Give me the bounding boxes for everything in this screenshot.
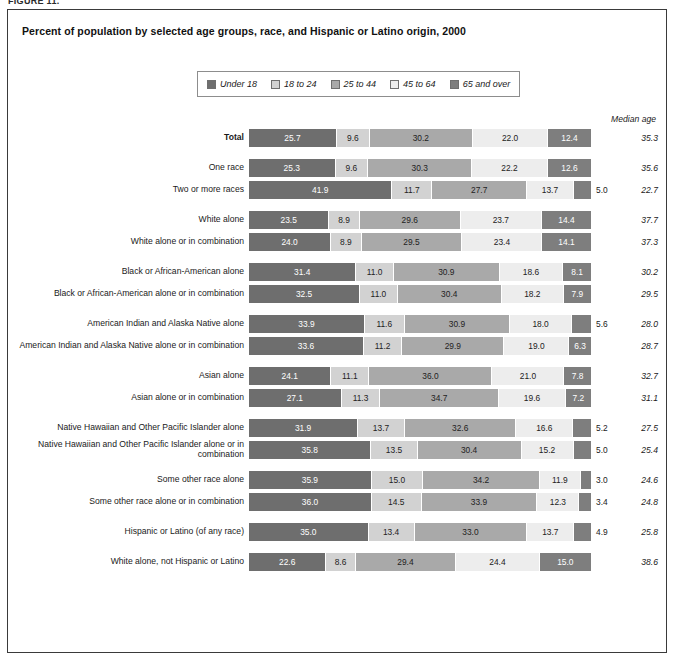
bar-segment: 30.9: [394, 263, 500, 281]
bar-segment: 13.7: [527, 181, 574, 199]
stacked-bar: 24.111.136.021.07.8: [249, 367, 591, 385]
bar-segment: 30.9: [405, 315, 511, 333]
bar-segment-value: 24.0: [281, 238, 297, 247]
bar-segment: 13.4: [369, 523, 415, 541]
legend-swatch-icon: [450, 80, 459, 89]
median-age-value: 29.5: [618, 285, 658, 303]
bar-segment-value: 7.8: [572, 372, 584, 381]
bar-segment-value: 11.0: [367, 268, 383, 277]
bar-segment-value: 15.0: [557, 558, 573, 567]
bar-segment-value: 13.7: [542, 186, 558, 195]
bar-segment-value: 19.6: [524, 394, 540, 403]
bar-segment-value: 8.1: [571, 268, 583, 277]
bar-segment: 41.9: [249, 181, 392, 199]
bar-segment-value: 25.3: [284, 164, 300, 173]
chart-row: Native Hawaiian and Other Pacific Island…: [8, 419, 667, 437]
bar-segment-value: 18.6: [523, 268, 539, 277]
bar-segment: 33.9: [422, 493, 538, 511]
stacked-bar: 24.08.929.523.414.1: [249, 233, 591, 251]
median-age-value: 30.2: [618, 263, 658, 281]
bar-segment-value: 34.7: [431, 394, 447, 403]
bar-segment-value: 33.9: [298, 320, 314, 329]
median-age-value: 24.6: [618, 471, 658, 489]
bar-segment: [572, 315, 591, 333]
bar-segment-value: 13.7: [373, 424, 389, 433]
bar-segment: 14.5: [372, 493, 422, 511]
figure-number: FIGURE 11.: [8, 0, 60, 4]
median-age-value: 28.7: [618, 337, 658, 355]
chart-row-label: American Indian and Alaska Native alone …: [8, 341, 244, 351]
median-age-value: 38.6: [618, 553, 658, 571]
bar-segment-value: 30.4: [461, 446, 477, 455]
bar-segment-value: 18.2: [524, 290, 540, 299]
bar-segment: 24.4: [456, 553, 539, 571]
bar-segment-value: 24.1: [282, 372, 298, 381]
bar-segment: 18.0: [510, 315, 572, 333]
bar-segment-value: 33.9: [471, 498, 487, 507]
bar-segment: 19.0: [504, 337, 569, 355]
bar-segment: 35.9: [249, 471, 372, 489]
bar-segment: 13.7: [358, 419, 405, 437]
bar-segment: 29.6: [360, 211, 461, 229]
bar-segment-value: 11.6: [376, 320, 392, 329]
chart-row: Black or African-American alone or in co…: [8, 285, 667, 303]
chart-row-label: Asian alone or in combination: [8, 393, 244, 403]
bar-segment: 11.6: [365, 315, 405, 333]
legend-item: 45 to 64: [390, 79, 436, 89]
chart-row: White alone or in combination24.08.929.5…: [8, 233, 667, 251]
bar-segment: 36.0: [249, 493, 372, 511]
legend-item-label: 25 to 44: [344, 79, 377, 89]
chart-row-label: One race: [8, 163, 244, 173]
bar-outside-value: 3.0: [596, 471, 608, 489]
stacked-bar: 35.915.034.211.9: [249, 471, 591, 489]
bar-segment-value: 13.7: [542, 528, 558, 537]
bar-segment: 22.2: [472, 159, 548, 177]
chart-row: Black or African-American alone31.411.03…: [8, 263, 667, 281]
bar-segment-value: 8.9: [338, 216, 350, 225]
bar-segment: 16.6: [516, 419, 573, 437]
bar-segment-value: 13.4: [383, 528, 399, 537]
bar-segment-value: 8.9: [340, 238, 352, 247]
bar-segment-value: 16.6: [536, 424, 552, 433]
chart-row-label: Two or more races: [8, 185, 244, 195]
bar-segment: 22.6: [249, 553, 326, 571]
median-age-value: 32.7: [618, 367, 658, 385]
chart-row: American Indian and Alaska Native alone3…: [8, 315, 667, 333]
bar-segment-value: 30.9: [438, 268, 454, 277]
chart-row: Hispanic or Latino (of any race)35.013.4…: [8, 523, 667, 541]
chart-rows: Total25.79.630.222.012.435.3One race25.3…: [8, 129, 667, 575]
legend-item: 18 to 24: [271, 79, 317, 89]
bar-segment-value: 23.7: [493, 216, 509, 225]
bar-segment: 14.1: [542, 233, 590, 251]
chart-row: Some other race alone or in combination3…: [8, 493, 667, 511]
chart-row-label: American Indian and Alaska Native alone: [8, 319, 244, 329]
bar-segment-value: 14.5: [388, 498, 404, 507]
bar-segment: 19.6: [499, 389, 566, 407]
bar-segment-value: 30.9: [449, 320, 465, 329]
bar-segment: 33.0: [415, 523, 528, 541]
bar-segment: 33.6: [249, 337, 364, 355]
bar-segment-value: 9.6: [347, 134, 359, 143]
median-age-value: 31.1: [618, 389, 658, 407]
bar-segment: 15.2: [522, 441, 574, 459]
bar-segment-value: 23.5: [280, 216, 296, 225]
bar-segment-value: 12.3: [550, 498, 566, 507]
bar-segment: 11.0: [360, 285, 398, 303]
bar-segment: 9.6: [336, 159, 369, 177]
bar-segment: 14.4: [542, 211, 591, 229]
bar-segment: 18.6: [500, 263, 564, 281]
bar-segment-value: 15.0: [389, 476, 405, 485]
bar-segment: 30.4: [398, 285, 502, 303]
bar-segment-value: 35.0: [300, 528, 316, 537]
bar-segment: 29.9: [402, 337, 504, 355]
stacked-bar: 35.813.530.415.2: [249, 441, 591, 459]
chart-row-label: Native Hawaiian and Other Pacific Island…: [8, 440, 244, 459]
bar-segment: 8.6: [326, 553, 355, 571]
bar-segment: 30.3: [368, 159, 472, 177]
bar-segment-value: 24.4: [489, 558, 505, 567]
bar-segment: 35.0: [249, 523, 369, 541]
legend-swatch-icon: [207, 80, 216, 89]
bar-segment-value: 21.0: [520, 372, 536, 381]
stacked-bar: 31.411.030.918.68.1: [249, 263, 591, 281]
bar-segment-value: 33.6: [298, 342, 314, 351]
